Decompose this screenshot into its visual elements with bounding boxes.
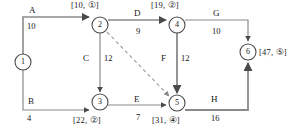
edge-H-name: H <box>211 95 218 104</box>
edge-E-weight: 7 <box>136 113 140 122</box>
node-3-label: 3 <box>92 98 108 106</box>
node-6-label: 6 <box>240 48 256 56</box>
edge-G-name: G <box>213 9 220 18</box>
edge-A-name: A <box>29 6 36 15</box>
node-4-annotation: [19, ②] <box>151 1 179 10</box>
edge-A-weight: 10 <box>27 22 36 31</box>
node-6-annotation: [47, ⑤] <box>259 48 287 57</box>
node-2-label: 2 <box>92 21 108 29</box>
edge-G-weight: 10 <box>212 27 221 36</box>
edge-F-name: F <box>161 54 166 63</box>
node-1-label: 1 <box>15 58 31 66</box>
diagram-canvas: 1 2 3 4 5 6 [10, ①] [19, ②] [47, ⑤] [22,… <box>0 0 304 135</box>
edge-H-weight: 16 <box>211 114 220 123</box>
edge-D-weight: 9 <box>136 27 140 36</box>
node-3-annotation: [22, ②] <box>73 116 101 125</box>
edge-dummy-dashed <box>107 32 169 96</box>
node-5-label: 5 <box>169 99 185 107</box>
node-2-annotation: [10, ①] <box>71 1 99 10</box>
edge-D-name: D <box>134 9 141 18</box>
edge-B-name: B <box>28 97 34 106</box>
edge-C-name: C <box>83 54 89 63</box>
edge-F-weight: 12 <box>181 54 190 63</box>
edge-E-name: E <box>134 95 140 104</box>
node-5-annotation: [31, ④] <box>152 116 180 125</box>
node-4-label: 4 <box>169 21 185 29</box>
edge-C-weight: 12 <box>104 54 113 63</box>
edge-B-weight: 4 <box>27 114 31 123</box>
